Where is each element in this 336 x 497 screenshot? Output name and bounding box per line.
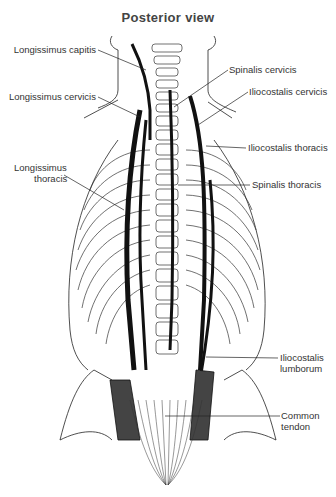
label-iliocostalis-cervicis: Iliocostalis cervicis	[249, 86, 327, 97]
label-spinalis-thoracis: Spinalis thoracis	[252, 179, 321, 190]
label-iliocostalis-thoracis: Iliocostalis thoracis	[248, 142, 328, 153]
label-longissimus-thoracis-2: thoracis	[34, 173, 67, 184]
label-spinalis-cervicis: Spinalis cervicis	[229, 64, 297, 75]
label-common-tendon-1: Common	[281, 410, 320, 421]
label-common-tendon-2: tendon	[281, 421, 310, 432]
label-longissimus-cervicis: Longissimus cervicis	[0, 91, 96, 102]
ribs-right	[186, 150, 260, 344]
label-iliocostalis-lumborum-2: lumborum	[280, 363, 322, 374]
label-longissimus-thoracis-1: Longissimus	[14, 162, 67, 173]
common-tendon	[130, 400, 202, 485]
label-iliocostalis-lumborum-1: Iliocostalis	[280, 352, 324, 363]
label-longissimus-capitis: Longissimus capitis	[10, 44, 96, 55]
spine	[152, 44, 182, 354]
